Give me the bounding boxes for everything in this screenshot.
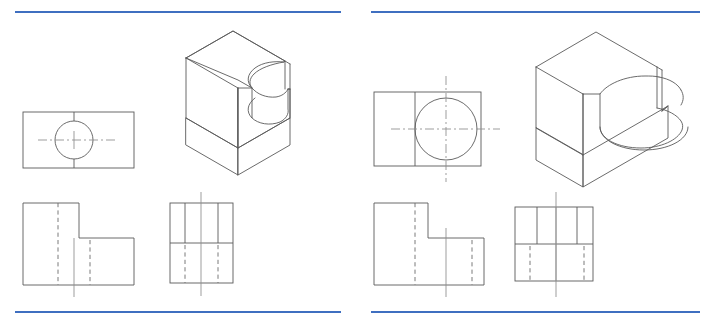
right-iso-wall-top-front-left-edge — [536, 67, 583, 94]
right-iso-pocket-arc-join — [681, 90, 683, 105]
right-iso-base-left-face — [536, 128, 583, 187]
right-side-view — [515, 192, 593, 297]
right-front-view — [374, 203, 484, 297]
drawing-page — [0, 0, 711, 323]
right-top-view — [374, 76, 500, 182]
right-iso-wall-top-back-edges — [536, 32, 657, 67]
right-iso-pocket-left-wall — [600, 94, 688, 150]
right-iso-wall-top-right-edge — [657, 67, 662, 70]
right-figure — [0, 0, 711, 323]
right-isometric-view — [536, 32, 688, 187]
right-iso-wall-top-front-arc — [583, 76, 659, 94]
right-front-view-outline — [374, 203, 484, 285]
right-iso-pocket-bottom-arc — [600, 108, 683, 148]
